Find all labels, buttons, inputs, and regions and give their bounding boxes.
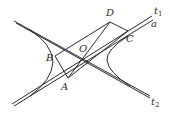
label-t1: t1 [154,6,163,18]
segment-BA [55,56,68,78]
hyperbola-diagram [0,0,170,116]
label-t1-sub: 1 [158,10,162,18]
label-O: O [79,44,87,54]
segment-DC [110,22,128,31]
hyperbola-left-branch [30,30,53,96]
label-t2: t2 [151,97,160,109]
label-a: a [151,19,157,29]
label-A: A [61,82,68,92]
label-t2-sub: 2 [155,101,159,109]
label-B: B [46,53,53,63]
label-C: C [126,34,134,44]
label-D: D [106,8,114,18]
